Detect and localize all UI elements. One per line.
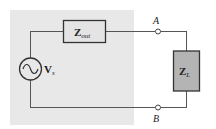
circuit-diagram: Zout Vs A B ZL	[0, 0, 216, 129]
terminal-b-label: B	[153, 113, 159, 124]
terminal-b-icon	[156, 105, 161, 110]
terminal-a-label: A	[152, 15, 160, 26]
circuit-svg: Zout Vs A B ZL	[0, 0, 216, 129]
terminal-a-icon	[156, 29, 161, 34]
